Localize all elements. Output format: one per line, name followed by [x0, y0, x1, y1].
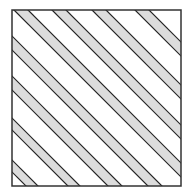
hatched-square-diagram: [0, 0, 186, 194]
square-background: [12, 10, 181, 186]
